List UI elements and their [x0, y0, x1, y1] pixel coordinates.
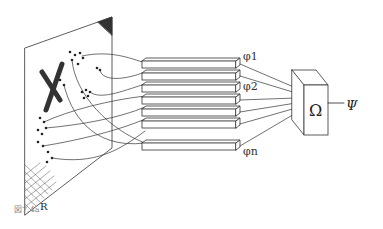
predicate-box-1 — [142, 58, 240, 68]
predicate-wires — [240, 64, 296, 146]
predicate-box-4 — [142, 94, 240, 104]
retina-plane — [25, 17, 112, 215]
predicate-bank — [142, 58, 240, 150]
omega-symbol: Ω — [309, 101, 322, 120]
predicate-box-2 — [142, 70, 240, 80]
predicate-label-n: φn — [243, 145, 258, 158]
figure-caption: 図7.4a — [14, 203, 40, 214]
predicate-box-3 — [142, 82, 240, 92]
perceptron-diagram: φ1 φ2 φn Ω Ψ R 図7.4a — [0, 0, 383, 229]
predicate-box-5 — [142, 106, 240, 116]
diagram-svg: φ1 φ2 φn Ω Ψ R — [0, 0, 383, 229]
predicate-box-7 — [142, 140, 240, 150]
predicate-label-2: φ2 — [243, 80, 258, 93]
retina-label: R — [40, 201, 48, 212]
predicate-label-1: φ1 — [243, 50, 258, 63]
output-symbol: Ψ — [346, 98, 358, 113]
predicate-box-6 — [142, 118, 240, 128]
